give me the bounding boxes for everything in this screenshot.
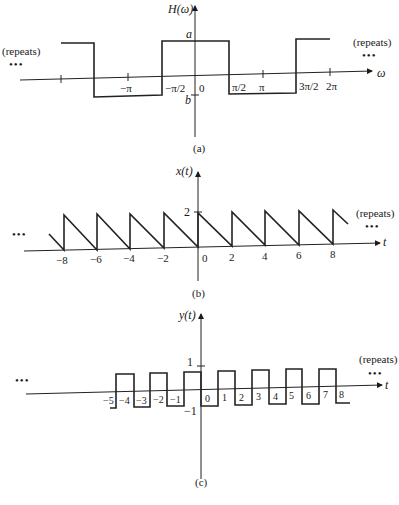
level-a-label: a (186, 27, 192, 41)
tick-neg-pi-half: −π/2 (165, 82, 185, 94)
t-axis-c (26, 385, 382, 394)
tick-0-b: 0 (202, 252, 208, 264)
ellipsis-right-c: ••• (368, 367, 383, 379)
ellipsis-right-b: ••• (365, 220, 380, 232)
tick-neg-4: −4 (119, 395, 130, 406)
tick-neg-3: −3 (136, 395, 147, 406)
tick-2-c: 2 (239, 392, 244, 403)
y-tick-label-2: 2 (184, 205, 190, 219)
tick-zero: 0 (199, 82, 205, 94)
panel-b: x(t) 2 t −8 −6 −4 −2 0 2 4 6 8 ••• (repe… (12, 164, 395, 300)
tick-neg-2: −2 (157, 252, 169, 264)
ellipsis-left: ••• (9, 58, 24, 70)
tick-5: 5 (289, 390, 294, 401)
tick-2: 2 (229, 251, 235, 263)
tick-pi: π (259, 81, 265, 93)
panel-c: y(t) 1 −1 t −5 −4 −3 −2 −1 0 1 2 3 4 5 6… (15, 308, 398, 489)
tick-neg-1: −1 (170, 394, 181, 405)
tick-6: 6 (296, 249, 302, 261)
figure-canvas: H(ω) a b ω −π −π/2 0 π/2 π 3π/2 2π (repe… (0, 0, 399, 505)
repeats-note-c: (repeats) (359, 353, 398, 366)
ellipsis-left-b: ••• (12, 228, 27, 240)
tick-7: 7 (323, 389, 328, 400)
ellipsis-left-c: ••• (15, 374, 30, 386)
caption-a: (a) (193, 142, 206, 155)
ellipsis-right: ••• (362, 49, 377, 61)
t-axis-label-c: t (385, 378, 389, 392)
tick-neg-pi: −π (120, 82, 132, 94)
t-axis-label-b: t (383, 235, 387, 249)
tick-neg-8: −8 (56, 254, 68, 266)
tick-1: 1 (222, 392, 227, 403)
tick-6-c: 6 (306, 390, 311, 401)
tick-two-pi: 2π (326, 80, 338, 92)
level-neg1-label: −1 (184, 404, 197, 418)
tick-neg-4: −4 (123, 252, 135, 264)
y-axis-label: y(t) (178, 308, 196, 322)
level-1-label: 1 (187, 355, 193, 369)
tick-three-pi-half: 3π/2 (299, 80, 319, 92)
repeats-note-b: (repeats) (356, 207, 395, 220)
repeats-left-note: (repeats) (2, 45, 41, 58)
tick-4-c: 4 (273, 391, 278, 402)
tick-neg-2: −2 (153, 394, 164, 405)
h-axis-label: H(ω) (167, 2, 193, 16)
tick-8-c: 8 (339, 389, 344, 400)
caption-c: (c) (195, 476, 208, 489)
tick-pi-half: π/2 (232, 81, 246, 93)
caption-b: (b) (192, 287, 205, 300)
t-axis-b (24, 243, 380, 251)
tick-neg-6: −6 (90, 253, 102, 265)
tick-neg-5: −5 (103, 395, 114, 406)
repeats-right-note: (repeats) (353, 36, 392, 49)
tick-0-c: 0 (205, 393, 210, 404)
level-b-label: b (185, 93, 191, 107)
tick-4: 4 (262, 250, 268, 262)
x-axis-label: x(t) (175, 164, 193, 178)
tick-8: 8 (330, 248, 336, 260)
x-waveform (49, 210, 348, 250)
panel-a: H(ω) a b ω −π −π/2 0 π/2 π 3π/2 2π (repe… (2, 2, 392, 155)
omega-axis (20, 71, 372, 80)
tick-3: 3 (256, 391, 261, 402)
omega-axis-label: ω (377, 66, 385, 80)
